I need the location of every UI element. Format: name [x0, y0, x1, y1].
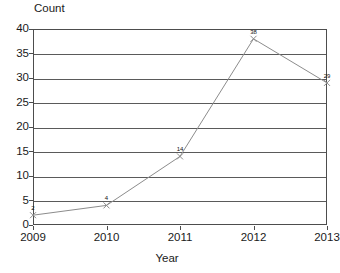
- x-axis-tick-label: 2010: [94, 232, 120, 244]
- data-point-marker: [324, 80, 330, 86]
- x-axis-tick-mark: [254, 226, 255, 230]
- data-point-label: 38: [250, 29, 257, 35]
- y-axis-tick-label: 5: [5, 195, 29, 207]
- data-point-label: 4: [105, 195, 108, 201]
- y-axis-tick-label: 15: [5, 146, 29, 158]
- x-axis-tick-label: 2013: [314, 232, 340, 244]
- data-point-label: 14: [177, 146, 184, 152]
- y-axis-tick-label: 0: [5, 219, 29, 231]
- y-axis-tick-label: 25: [5, 97, 29, 109]
- y-axis-tick-label: 20: [5, 121, 29, 133]
- y-axis-tick-label: 35: [5, 48, 29, 60]
- y-axis-tick-label: 10: [5, 170, 29, 182]
- data-point-label: 2: [31, 205, 34, 211]
- data-point-marker: [177, 153, 183, 159]
- y-axis-tick-label: 30: [5, 72, 29, 84]
- x-axis-tick-mark: [327, 226, 328, 230]
- y-axis: 0510152025303540: [0, 29, 29, 225]
- x-axis-tick-mark: [33, 226, 34, 230]
- y-axis-tick-label: 40: [5, 23, 29, 35]
- series-line: [33, 39, 327, 215]
- y-axis-title: Count: [34, 2, 65, 15]
- data-point-label: 29: [324, 73, 331, 79]
- x-axis-tick-label: 2009: [20, 232, 46, 244]
- x-axis-tick-label: 2011: [168, 232, 193, 244]
- x-axis-tick-label: 2012: [241, 232, 267, 244]
- data-point-marker: [251, 36, 257, 42]
- x-axis-tick-mark: [180, 226, 181, 230]
- data-series-line: [33, 29, 327, 225]
- x-axis-tick-mark: [107, 226, 108, 230]
- x-axis-title: Year: [0, 252, 334, 264]
